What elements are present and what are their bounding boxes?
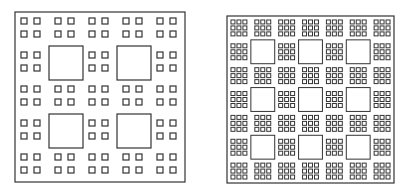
small-square xyxy=(21,120,27,126)
small-square xyxy=(380,115,384,119)
small-square xyxy=(350,169,354,173)
small-square xyxy=(338,32,342,36)
small-square xyxy=(386,56,390,60)
small-square xyxy=(350,115,354,119)
small-square xyxy=(386,92,390,96)
small-square xyxy=(34,31,40,37)
small-square xyxy=(338,50,342,54)
small-square xyxy=(237,50,241,54)
small-square xyxy=(68,31,74,37)
small-square xyxy=(350,163,354,167)
small-square xyxy=(267,169,271,173)
small-square xyxy=(136,167,142,173)
small-square xyxy=(261,80,265,84)
small-square xyxy=(261,32,265,36)
small-square xyxy=(243,20,247,24)
small-square xyxy=(374,56,378,60)
small-square xyxy=(21,18,27,24)
small-square xyxy=(386,127,390,131)
small-square xyxy=(338,103,342,107)
small-square xyxy=(237,163,241,167)
small-square xyxy=(231,56,235,60)
small-square xyxy=(291,20,295,24)
small-square xyxy=(380,163,384,167)
small-square xyxy=(374,175,378,179)
small-square xyxy=(350,20,354,24)
small-square xyxy=(34,133,40,139)
large-square xyxy=(251,88,275,112)
small-square xyxy=(261,175,265,179)
small-square xyxy=(243,163,247,167)
small-square xyxy=(279,20,283,24)
small-square xyxy=(309,115,313,119)
small-square xyxy=(243,145,247,149)
small-square xyxy=(356,80,360,84)
small-square xyxy=(338,121,342,125)
small-square xyxy=(362,121,366,125)
small-square xyxy=(326,74,330,78)
small-square xyxy=(243,92,247,96)
small-square xyxy=(170,99,176,105)
small-square xyxy=(237,56,241,60)
small-square xyxy=(243,121,247,125)
small-square xyxy=(255,68,259,72)
small-square xyxy=(350,175,354,179)
small-square xyxy=(279,56,283,60)
small-square xyxy=(285,139,289,143)
small-square xyxy=(356,26,360,30)
small-square xyxy=(243,115,247,119)
small-square xyxy=(303,121,307,125)
small-square xyxy=(102,99,108,105)
small-square xyxy=(386,175,390,179)
small-square xyxy=(338,139,342,143)
small-square xyxy=(237,151,241,155)
small-square xyxy=(303,127,307,131)
small-square xyxy=(231,98,235,102)
small-square xyxy=(326,92,330,96)
small-square xyxy=(309,26,313,30)
small-square xyxy=(170,65,176,71)
small-square xyxy=(386,98,390,102)
small-square xyxy=(123,154,129,160)
small-square xyxy=(356,169,360,173)
small-square xyxy=(279,127,283,131)
small-square xyxy=(291,32,295,36)
small-square xyxy=(285,103,289,107)
small-square xyxy=(374,44,378,48)
small-square xyxy=(267,26,271,30)
large-square xyxy=(49,46,83,80)
fractal-diagram xyxy=(0,0,409,195)
small-square xyxy=(332,121,336,125)
small-square xyxy=(231,175,235,179)
small-square xyxy=(170,167,176,173)
small-square xyxy=(279,98,283,102)
small-square xyxy=(338,175,342,179)
small-square xyxy=(21,86,27,92)
small-square xyxy=(332,98,336,102)
small-square xyxy=(243,44,247,48)
small-square xyxy=(303,26,307,30)
small-square xyxy=(350,127,354,131)
small-square xyxy=(338,127,342,131)
small-square xyxy=(291,26,295,30)
small-square xyxy=(338,44,342,48)
small-square xyxy=(285,68,289,72)
small-square xyxy=(34,167,40,173)
small-square xyxy=(261,127,265,131)
small-square xyxy=(243,139,247,143)
small-square xyxy=(261,163,265,167)
small-square xyxy=(332,56,336,60)
small-square xyxy=(338,151,342,155)
small-square xyxy=(34,86,40,92)
small-square xyxy=(374,80,378,84)
small-square xyxy=(89,86,95,92)
small-square xyxy=(89,99,95,105)
small-square xyxy=(374,103,378,107)
small-square xyxy=(303,163,307,167)
small-square xyxy=(237,20,241,24)
small-square xyxy=(261,115,265,119)
small-square xyxy=(386,44,390,48)
small-square xyxy=(362,163,366,167)
small-square xyxy=(326,50,330,54)
small-square xyxy=(89,18,95,24)
